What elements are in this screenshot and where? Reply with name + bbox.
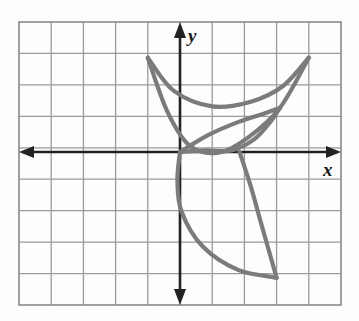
plotted-curves <box>148 58 309 278</box>
lower-crescent-left <box>177 152 276 278</box>
graph-figure: y x <box>0 0 359 321</box>
y-axis-arrow-down <box>174 289 186 305</box>
x-axis-label: x <box>323 160 333 179</box>
y-axis-arrow-up <box>174 22 186 38</box>
coordinate-plane-svg <box>0 0 359 321</box>
y-axis-label: y <box>188 26 196 45</box>
lower-crescent-right <box>240 152 277 278</box>
